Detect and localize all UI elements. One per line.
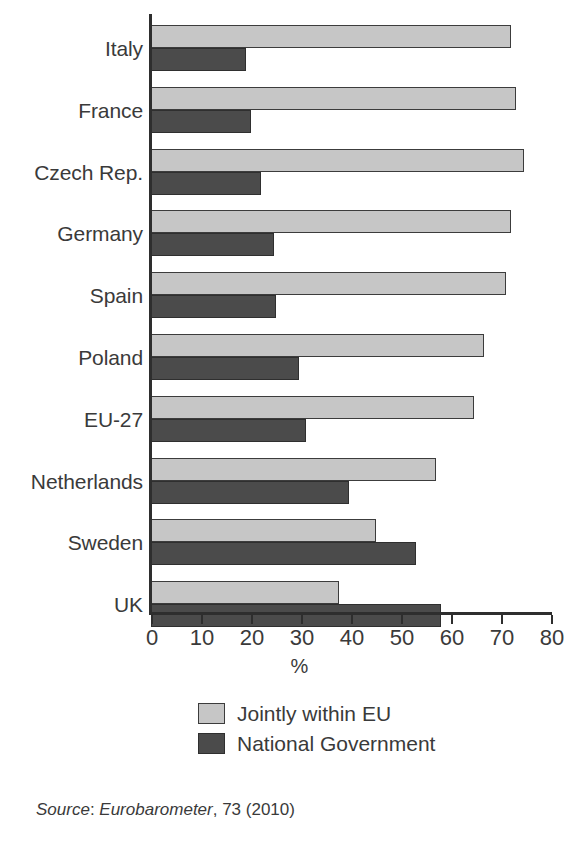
axis-tick-label: 20 bbox=[240, 626, 264, 650]
source-details: , 73 (2010) bbox=[213, 800, 295, 819]
legend-swatch-icon bbox=[198, 703, 225, 724]
bar-jointly-within-eu bbox=[151, 334, 484, 357]
bar-jointly-within-eu bbox=[151, 396, 474, 419]
axis-tick-label: 70 bbox=[490, 626, 514, 650]
axis-tick bbox=[351, 615, 353, 624]
axis-tick-label: 10 bbox=[190, 626, 214, 650]
axis-tick-label: 50 bbox=[390, 626, 414, 650]
bar-jointly-within-eu bbox=[151, 458, 436, 481]
x-axis-caption: % bbox=[0, 655, 581, 678]
axis-tick-label: 0 bbox=[146, 626, 158, 650]
chart-legend: Jointly within EUNational Government bbox=[198, 698, 435, 758]
bar-national-government bbox=[151, 295, 276, 318]
axis-tick bbox=[401, 615, 403, 624]
bar-jointly-within-eu bbox=[151, 87, 516, 110]
value-axis-line bbox=[149, 14, 152, 615]
legend-label: Jointly within EU bbox=[237, 703, 391, 724]
source-prefix: Source bbox=[36, 800, 90, 819]
bar-jointly-within-eu bbox=[151, 581, 339, 604]
bar-jointly-within-eu bbox=[151, 25, 511, 48]
bar-national-government bbox=[151, 542, 416, 565]
bar-national-government bbox=[151, 172, 261, 195]
source-publication: Eurobarometer bbox=[99, 800, 212, 819]
bar-national-government bbox=[151, 110, 251, 133]
axis-tick bbox=[301, 615, 303, 624]
bar-jointly-within-eu bbox=[151, 519, 376, 542]
chart-figure: ItalyFranceCzech Rep.GermanySpainPolandE… bbox=[0, 0, 581, 843]
bars-layer bbox=[0, 0, 581, 620]
axis-tick-label: 30 bbox=[290, 626, 314, 650]
axis-tick bbox=[151, 615, 153, 624]
bar-national-government bbox=[151, 357, 299, 380]
plot-area: ItalyFranceCzech Rep.GermanySpainPolandE… bbox=[0, 0, 581, 620]
bar-national-government bbox=[151, 48, 246, 71]
legend-label: National Government bbox=[237, 733, 435, 754]
bar-jointly-within-eu bbox=[151, 210, 511, 233]
source-note: Source: Eurobarometer, 73 (2010) bbox=[36, 800, 295, 820]
axis-tick bbox=[451, 615, 453, 624]
legend-swatch-icon bbox=[198, 733, 225, 754]
axis-tick-label: 80 bbox=[540, 626, 564, 650]
bar-national-government bbox=[151, 481, 349, 504]
bar-national-government bbox=[151, 604, 441, 627]
axis-tick bbox=[551, 615, 553, 624]
bar-jointly-within-eu bbox=[151, 272, 506, 295]
axis-tick bbox=[251, 615, 253, 624]
axis-tick bbox=[201, 615, 203, 624]
legend-item: Jointly within EU bbox=[198, 698, 435, 728]
bar-jointly-within-eu bbox=[151, 149, 524, 172]
source-separator: : bbox=[90, 800, 99, 819]
bar-national-government bbox=[151, 233, 274, 256]
bar-national-government bbox=[151, 419, 306, 442]
axis-tick-label: 40 bbox=[340, 626, 364, 650]
axis-tick bbox=[501, 615, 503, 624]
axis-tick-label: 60 bbox=[440, 626, 464, 650]
legend-item: National Government bbox=[198, 728, 435, 758]
